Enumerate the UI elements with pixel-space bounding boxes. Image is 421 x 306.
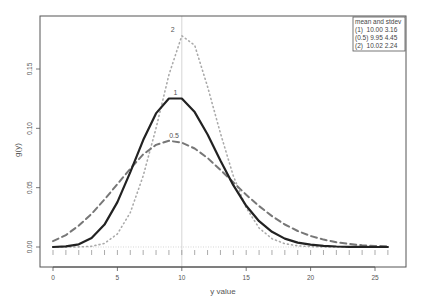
series-label: 0.5 [169,132,179,139]
x-tick-label: 10 [178,274,186,281]
series-label: 2 [171,26,175,33]
legend-entry: (1) 10.00 3.16 [355,26,398,34]
reference-lines [53,16,388,267]
legend: mean and stdev (1) 10.00 3.16 (0.5) 9.95… [353,17,405,51]
plot-frame [40,16,406,267]
x-axis: 0510152025 [51,267,379,281]
y-axis-label: g(y) [13,143,22,157]
y-tick-label: 0.05 [26,181,33,194]
legend-entry: (2) 10.02 2.24 [355,42,398,50]
series-lines [53,36,388,247]
x-tick-label: 0 [51,274,55,281]
series-line-0-5 [53,141,388,247]
series-labels: 10.52 [169,26,179,139]
y-tick-label: 0.00 [26,240,33,253]
rug-ticks [53,250,388,255]
density-chart: 10.52 0510152025 0.000.050.100.15 y valu… [0,0,421,306]
x-tick-label: 5 [116,274,120,281]
series-line-2 [53,36,388,247]
legend-entry: (0.5) 9.95 4.45 [355,34,398,42]
y-tick-label: 0.15 [26,62,33,75]
series-label: 1 [173,89,177,96]
y-tick-label: 0.10 [26,122,33,135]
y-axis: 0.000.050.100.15 [26,62,40,253]
x-tick-label: 20 [307,274,315,281]
legend-title: mean and stdev [355,18,402,25]
x-tick-label: 25 [371,274,379,281]
x-axis-label: y value [210,287,236,296]
x-tick-label: 15 [243,274,251,281]
series-line-1 [53,99,388,248]
